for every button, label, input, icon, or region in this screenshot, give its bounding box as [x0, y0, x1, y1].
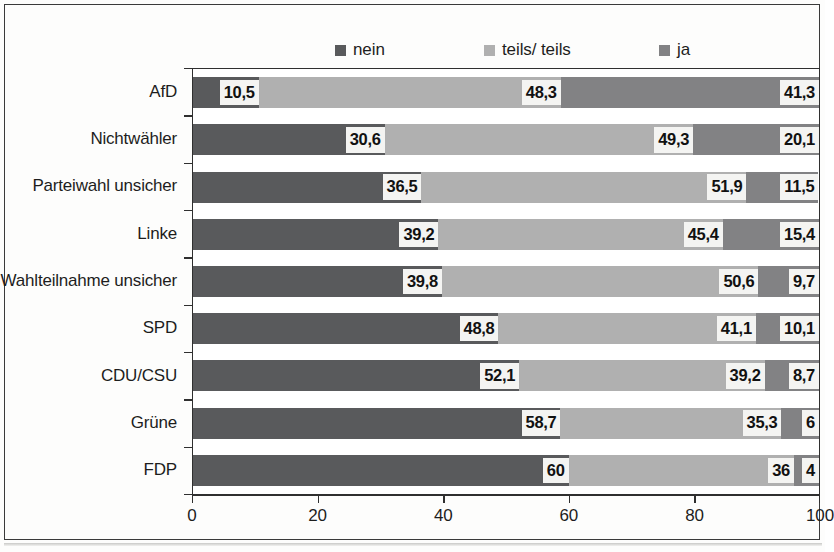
- bar-row: 10,548,341,3: [193, 77, 819, 108]
- bar-segment: 36,5: [193, 172, 421, 203]
- bar-segment: 9,7: [758, 266, 819, 297]
- legend-item-ja: ja: [659, 40, 690, 60]
- bar-row: 58,735,36: [193, 408, 819, 439]
- bar-value-label: 49,3: [654, 127, 693, 153]
- bar-segment: 10,1: [756, 313, 819, 344]
- bar-value-label: 41,1: [717, 316, 756, 342]
- bar-segment: 8,7: [765, 360, 819, 391]
- bar-segment: 48,8: [193, 313, 498, 344]
- bar-segment: 30,6: [193, 124, 385, 155]
- category-label: Nichtwähler: [0, 123, 186, 154]
- bar-value-label: 36,5: [383, 174, 422, 200]
- bar-segment: 20,1: [693, 124, 819, 155]
- bar-value-label: 30,6: [346, 127, 385, 153]
- category-tick-mark: [184, 447, 192, 448]
- value-tick-mark: [443, 494, 444, 503]
- legend-item-nein: nein: [335, 40, 385, 60]
- bar-value-label: 39,8: [403, 269, 442, 295]
- category-tick-mark: [184, 494, 192, 495]
- bar-segment: 39,8: [193, 266, 442, 297]
- category-tick-mark: [184, 163, 192, 164]
- legend-item-teils-teils: teils/ teils: [484, 40, 571, 60]
- plot-area: 10,548,341,330,649,320,136,551,911,539,2…: [192, 68, 820, 494]
- bar-row: 36,551,911,5: [193, 172, 819, 203]
- bar-row: 30,649,320,1: [193, 124, 819, 155]
- category-tick-mark: [184, 352, 192, 353]
- value-tick-label: 60: [560, 506, 579, 526]
- legend-label: ja: [677, 40, 690, 60]
- bar-value-label: 50,6: [719, 269, 758, 295]
- value-tick-label: 40: [434, 506, 453, 526]
- bar-value-label: 60: [543, 458, 569, 484]
- value-axis-ticks: [192, 494, 820, 503]
- bar-value-label: 48,8: [460, 316, 499, 342]
- value-tick-label: 100: [806, 506, 834, 526]
- figure-bottom-shadow: [4, 543, 822, 546]
- legend-label: teils/ teils: [502, 40, 571, 60]
- value-tick-label: 80: [685, 506, 704, 526]
- bar-segment: 36: [569, 455, 794, 486]
- category-tick-mark: [184, 68, 192, 69]
- bar-value-label: 45,4: [684, 222, 723, 248]
- value-tick-mark: [819, 494, 820, 503]
- legend-swatch-icon: [659, 45, 670, 56]
- bar-value-label: 48,3: [522, 80, 561, 106]
- bar-value-label: 6: [802, 410, 819, 436]
- bar-value-label: 39,2: [726, 363, 765, 389]
- bar-segment: 11,5: [746, 172, 818, 203]
- bar-segment: 58,7: [193, 408, 560, 439]
- bar-segment: 41,3: [561, 77, 819, 108]
- bar-value-label: 8,7: [789, 363, 819, 389]
- bar-segment: 52,1: [193, 360, 519, 391]
- value-tick-mark: [569, 494, 570, 503]
- bar-series-container: 10,548,341,330,649,320,136,551,911,539,2…: [193, 69, 819, 494]
- bar-segment: 48,3: [259, 77, 561, 108]
- value-axis-labels: 020406080100: [192, 506, 820, 534]
- category-axis-ticks: [184, 68, 192, 494]
- chart-legend: neinteils/ teilsja: [192, 38, 820, 62]
- bar-segment: 15,4: [723, 219, 819, 250]
- category-label: Wahlteilnahme unsicher: [0, 265, 186, 296]
- category-tick-mark: [184, 399, 192, 400]
- bar-value-label: 36: [768, 458, 794, 484]
- bar-value-label: 20,1: [780, 127, 819, 153]
- bar-value-label: 10,1: [780, 316, 819, 342]
- bar-value-label: 52,1: [480, 363, 519, 389]
- bar-row: 60364: [193, 455, 819, 486]
- bar-row: 39,850,69,7: [193, 266, 819, 297]
- category-axis-labels: AfDNichtwählerParteiwahl unsicherLinkeWa…: [0, 68, 186, 494]
- category-label: FDP: [0, 455, 186, 486]
- category-tick-mark: [184, 115, 192, 116]
- bar-row: 52,139,28,7: [193, 360, 819, 391]
- value-tick-mark: [694, 494, 695, 503]
- bar-value-label: 4: [802, 458, 819, 484]
- legend-swatch-icon: [335, 45, 346, 56]
- category-label: Linke: [0, 218, 186, 249]
- bar-value-label: 51,9: [707, 174, 746, 200]
- bar-segment: 35,3: [560, 408, 781, 439]
- bar-segment: 51,9: [421, 172, 746, 203]
- value-tick-mark: [192, 494, 193, 503]
- bar-value-label: 41,3: [780, 80, 819, 106]
- category-label: AfD: [0, 76, 186, 107]
- category-label: SPD: [0, 313, 186, 344]
- bar-segment: 45,4: [438, 219, 722, 250]
- bar-segment: 50,6: [442, 266, 758, 297]
- value-tick-mark: [318, 494, 319, 503]
- bar-row: 48,841,110,1: [193, 313, 819, 344]
- legend-swatch-icon: [484, 45, 495, 56]
- bar-value-label: 58,7: [522, 410, 561, 436]
- bar-value-label: 11,5: [780, 174, 818, 200]
- value-tick-label: 0: [187, 506, 196, 526]
- bar-segment: 10,5: [193, 77, 259, 108]
- bar-row: 39,245,415,4: [193, 219, 819, 250]
- bar-value-label: 9,7: [789, 269, 819, 295]
- bar-segment: 41,1: [498, 313, 755, 344]
- category-tick-mark: [184, 210, 192, 211]
- bar-segment: 49,3: [385, 124, 694, 155]
- bar-segment: 60: [193, 455, 569, 486]
- bar-segment: 6: [781, 408, 819, 439]
- value-tick-label: 20: [308, 506, 327, 526]
- category-tick-mark: [184, 257, 192, 258]
